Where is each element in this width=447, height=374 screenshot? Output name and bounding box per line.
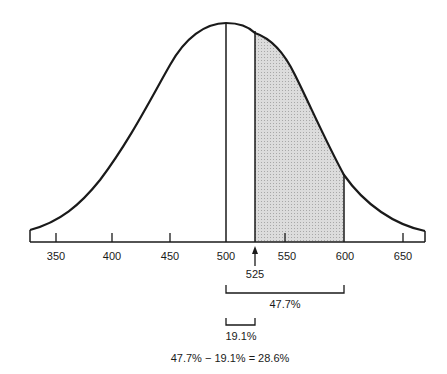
normal-curve-chart (0, 0, 447, 374)
shaded-area (255, 33, 344, 242)
tick-label-500: 500 (217, 250, 235, 262)
tick-label-650: 650 (394, 250, 412, 262)
bell-curve (30, 23, 425, 231)
tick-label-450: 450 (161, 250, 179, 262)
tick-label-600: 600 (336, 250, 354, 262)
tick-label-400: 400 (103, 250, 121, 262)
tick-label-350: 350 (47, 250, 65, 262)
tick-label-550: 550 (278, 250, 296, 262)
equation-text: 47.7% − 19.1% = 28.6% (171, 352, 290, 364)
bracket-19-1 (226, 318, 255, 325)
arrow-525 (252, 246, 258, 266)
arrow-label-525: 525 (246, 268, 264, 280)
bracket-47-7 (226, 285, 344, 293)
bracket-label-47-7: 47.7% (269, 298, 300, 310)
x-ticks (56, 233, 403, 242)
bracket-label-19-1: 19.1% (225, 330, 256, 342)
